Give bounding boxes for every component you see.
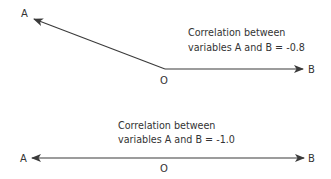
panel-top: A B O Correlation between variables A an… [21, 8, 315, 86]
correlation-vector-diagram: A B O Correlation between variables A an… [0, 0, 331, 179]
correlation-caption-line1: Correlation between [188, 27, 285, 38]
vector-a-label: A [21, 8, 28, 19]
vector-a-arrow [34, 19, 165, 69]
origin-label: O [160, 75, 168, 86]
correlation-caption-line2: variables A and B = -0.8 [188, 42, 305, 53]
correlation-caption-line2: variables A and B = -1.0 [118, 134, 235, 145]
vector-a-label: A [20, 153, 27, 164]
origin-label: O [160, 163, 168, 174]
vector-b-label: B [308, 153, 315, 164]
vector-b-label: B [308, 64, 315, 75]
panel-bottom: A B O Correlation between variables A an… [20, 120, 315, 174]
correlation-caption-line1: Correlation between [118, 120, 215, 131]
